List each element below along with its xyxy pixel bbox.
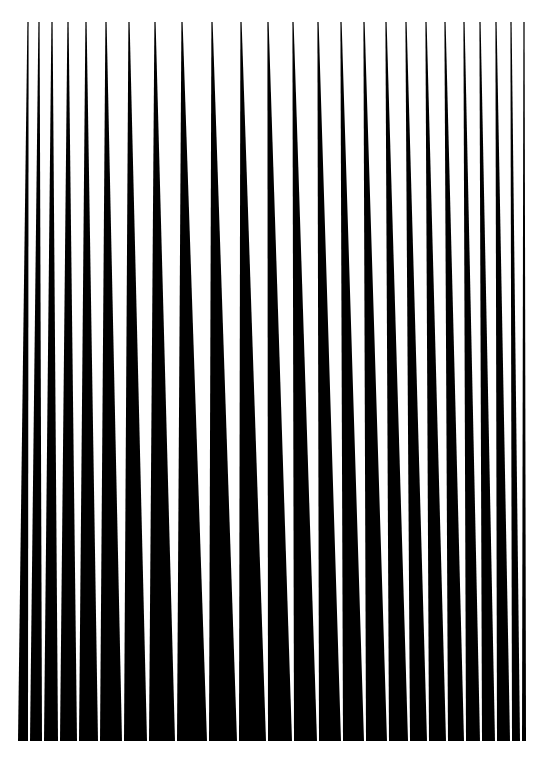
op-art-wedges xyxy=(0,0,543,759)
